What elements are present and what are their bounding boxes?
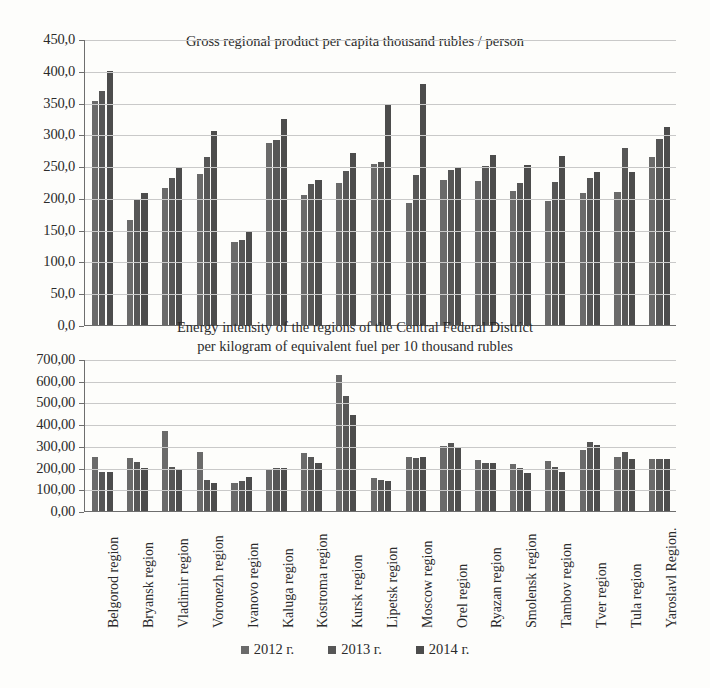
category-label: Lipetsk region xyxy=(385,547,401,628)
legend-item[interactable]: 2012 г. xyxy=(241,641,295,658)
bar xyxy=(176,167,182,325)
legend-swatch-icon xyxy=(241,646,249,654)
bar xyxy=(587,178,593,325)
bar xyxy=(378,162,384,325)
bar xyxy=(664,127,670,325)
bar xyxy=(420,84,426,326)
bar xyxy=(440,180,446,325)
bar xyxy=(629,172,635,325)
gridline xyxy=(85,231,676,232)
bar xyxy=(622,148,628,325)
y-axis-tick-label: 0,00 xyxy=(0,503,75,520)
y-axis-tick-label: 150,0 xyxy=(0,222,75,239)
axis-tickmark xyxy=(79,135,84,136)
bar-group xyxy=(329,40,364,325)
bar xyxy=(239,240,245,325)
bar xyxy=(580,450,586,511)
bar xyxy=(448,170,454,325)
bar-group xyxy=(155,40,190,325)
y-axis-tick-label: 500,00 xyxy=(0,394,75,411)
gridline xyxy=(85,199,676,200)
axis-tickmark xyxy=(79,72,84,73)
bar-group xyxy=(398,40,433,325)
bar xyxy=(371,164,377,325)
legend-swatch-icon xyxy=(328,646,336,654)
bar xyxy=(455,448,461,511)
gridline xyxy=(85,294,676,295)
axis-tickmark xyxy=(79,403,84,404)
bar xyxy=(475,181,481,325)
legend-swatch-icon xyxy=(416,646,424,654)
category-label: Smolensk region xyxy=(524,534,540,629)
bar-group xyxy=(259,40,294,325)
y-axis-tick-label: 300,0 xyxy=(0,126,75,143)
bar-group xyxy=(189,40,224,325)
bar xyxy=(343,396,349,511)
category-label: Voronezh region xyxy=(211,535,227,628)
category-label: Kursk region xyxy=(350,555,366,629)
bar xyxy=(559,472,565,511)
legend-item[interactable]: 2013 г. xyxy=(328,641,382,658)
bar xyxy=(406,203,412,325)
bars-layer-top xyxy=(85,40,676,325)
bar xyxy=(127,220,133,325)
bar xyxy=(301,195,307,325)
bar xyxy=(524,165,530,325)
bar xyxy=(510,464,516,511)
bar xyxy=(246,231,252,325)
bar-group xyxy=(607,40,642,325)
gridline xyxy=(85,382,676,383)
bar xyxy=(580,193,586,325)
bar xyxy=(622,452,628,511)
bar xyxy=(649,157,655,325)
y-axis-tick-label: 300,00 xyxy=(0,438,75,455)
bar-group xyxy=(364,40,399,325)
bar xyxy=(587,442,593,511)
bar xyxy=(315,180,321,325)
bar-group xyxy=(503,40,538,325)
y-axis-tick-label: 350,0 xyxy=(0,95,75,112)
bar xyxy=(169,467,175,512)
bar xyxy=(239,481,245,511)
chart-page: Gross regional product per capita thousa… xyxy=(0,0,710,688)
bar xyxy=(107,472,113,511)
bar xyxy=(378,480,384,511)
bar xyxy=(371,478,377,511)
bar xyxy=(343,171,349,325)
gridline xyxy=(85,135,676,136)
bar xyxy=(197,174,203,325)
legend-item[interactable]: 2014 г. xyxy=(416,641,470,658)
axis-tickmark xyxy=(79,262,84,263)
y-axis-tick-label: 100,0 xyxy=(0,253,75,270)
category-label: Tambov region xyxy=(559,543,575,628)
axis-tickmark xyxy=(79,294,84,295)
bar-group xyxy=(642,40,677,325)
gridline xyxy=(85,403,676,404)
bar xyxy=(315,463,321,511)
y-axis-tick-label: 200,0 xyxy=(0,190,75,207)
bar xyxy=(552,182,558,325)
category-label: Ryazan region xyxy=(489,547,505,628)
gridline xyxy=(85,40,676,41)
chart-legend: 2012 г.2013 г.2014 г. xyxy=(0,641,710,658)
category-label: Moscow region xyxy=(420,541,436,629)
bar-group xyxy=(433,40,468,325)
bar-group xyxy=(120,40,155,325)
category-label: Bryansk region xyxy=(141,542,157,628)
axis-tickmark xyxy=(79,167,84,168)
bar xyxy=(510,191,516,325)
bar xyxy=(99,472,105,511)
plot-area-bottom xyxy=(84,360,676,512)
bar xyxy=(413,175,419,325)
bar xyxy=(440,446,446,511)
bar-group xyxy=(294,40,329,325)
category-label: Kaluga region xyxy=(281,548,297,628)
bar xyxy=(559,156,565,325)
bar xyxy=(301,453,307,511)
y-axis-tick-label: 700,00 xyxy=(0,351,75,368)
bar xyxy=(162,188,168,325)
y-axis-tick-label: 400,0 xyxy=(0,63,75,80)
bar-group xyxy=(224,40,259,325)
y-axis-tick-label: 100,00 xyxy=(0,481,75,498)
plot-area-top xyxy=(84,40,676,326)
